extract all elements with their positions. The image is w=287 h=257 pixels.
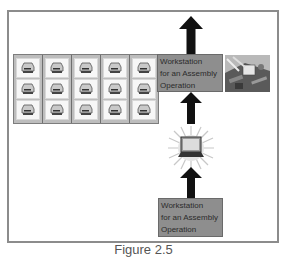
hard-drive-icon: [137, 83, 151, 95]
hard-drive-icon: [79, 104, 93, 116]
laptop-starburst-icon: [168, 126, 214, 170]
hard-drive-icon: [108, 83, 122, 95]
grid-cell: [103, 100, 127, 120]
grid-column: [101, 55, 130, 123]
box-line: for an Assembly: [161, 212, 220, 224]
grid-cell: [74, 100, 98, 120]
hard-drive-icon: [50, 62, 64, 74]
diagram-frame: [7, 10, 279, 243]
box-line: Operation: [161, 224, 220, 236]
hard-drive-icon: [108, 104, 122, 116]
grid-cell: [45, 100, 69, 120]
hard-drive-icon: [50, 83, 64, 95]
hard-drive-icon: [79, 83, 93, 95]
grid-cell: [132, 58, 156, 78]
grid-cell: [16, 79, 40, 99]
hard-drive-icon: [137, 104, 151, 116]
grid-cell: [74, 58, 98, 78]
grid-column: [72, 55, 101, 123]
arrow-up-icon: [180, 92, 202, 124]
component-grid: [13, 54, 159, 124]
box-line: Workstation: [160, 56, 220, 68]
figure-caption: Figure 2.5: [0, 243, 287, 257]
hard-drive-icon: [21, 104, 35, 116]
grid-cell: [16, 58, 40, 78]
grid-cell: [45, 58, 69, 78]
grid-column: [43, 55, 72, 123]
grid-cell: [132, 79, 156, 99]
grid-cell: [132, 100, 156, 120]
grid-cell: [16, 100, 40, 120]
grid-column: [130, 55, 158, 123]
grid-cell: [103, 58, 127, 78]
hard-drive-icon: [50, 104, 64, 116]
hard-drive-icon: [137, 62, 151, 74]
hard-drive-icon: [21, 83, 35, 95]
grid-cell: [45, 79, 69, 99]
box-line: for an Assembly: [160, 68, 220, 80]
workstation-box-bottom: Workstation for an Assembly Operation: [158, 198, 223, 237]
hard-drive-icon: [79, 62, 93, 74]
box-line: Operation: [160, 80, 220, 92]
box-line: Workstation: [161, 200, 220, 212]
circuit-board-photo: [225, 55, 270, 92]
grid-cell: [103, 79, 127, 99]
hard-drive-icon: [21, 62, 35, 74]
arrow-up-icon: [179, 16, 203, 55]
workstation-box-top: Workstation for an Assembly Operation: [157, 54, 223, 92]
grid-column: [14, 55, 43, 123]
grid-cell: [74, 79, 98, 99]
hard-drive-icon: [108, 62, 122, 74]
arrow-up-icon: [180, 167, 202, 199]
